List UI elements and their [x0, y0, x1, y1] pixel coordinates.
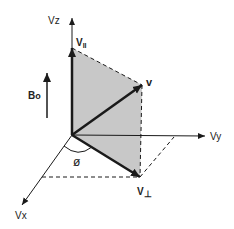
b-field-label: Bo	[28, 90, 41, 101]
vx-axis	[22, 135, 72, 205]
velocity-decomposition-diagram: Vz Vy Vx v VII V⊥ Bo ø	[0, 0, 234, 229]
vx-label: Vx	[15, 210, 27, 221]
v-label: v	[146, 76, 153, 88]
v-perp-label: V⊥	[137, 186, 152, 199]
vz-label: Vz	[48, 15, 60, 26]
phi-angle-arc	[64, 146, 92, 152]
v-parallel-label: VII	[76, 37, 87, 49]
vy-label: Vy	[210, 131, 221, 142]
phi-label: ø	[73, 155, 81, 169]
